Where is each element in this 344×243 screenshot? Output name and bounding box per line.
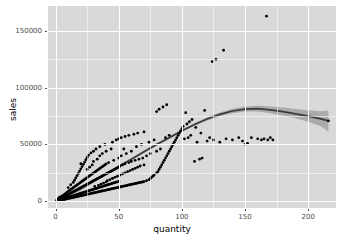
data-point xyxy=(124,135,127,138)
data-point xyxy=(162,106,165,109)
gridline-minor-vertical xyxy=(213,6,214,208)
data-point xyxy=(96,158,99,161)
data-point xyxy=(188,120,191,123)
x-axis-title: quantity xyxy=(0,224,344,234)
data-point xyxy=(98,154,101,157)
data-point xyxy=(132,133,135,136)
gridline-minor-horizontal xyxy=(48,59,336,60)
y-axis-title: sales xyxy=(8,98,18,121)
data-point xyxy=(186,123,189,126)
data-point xyxy=(67,186,70,189)
data-point xyxy=(263,137,266,140)
data-point xyxy=(256,137,259,140)
data-point xyxy=(164,136,167,139)
data-point xyxy=(271,139,274,142)
scatter-plot-figure: quantity sales 0500001000001500000501001… xyxy=(0,0,344,243)
x-tick-mark xyxy=(56,209,57,211)
gridline-major-vertical xyxy=(245,6,246,208)
gridline-major-horizontal xyxy=(48,144,336,145)
data-point xyxy=(222,49,225,52)
data-point xyxy=(105,150,108,153)
gridline-major-vertical xyxy=(308,6,309,208)
data-point xyxy=(127,161,130,164)
data-point xyxy=(135,145,138,148)
data-point xyxy=(231,139,234,142)
x-tick-mark xyxy=(119,209,120,211)
data-point xyxy=(98,145,101,148)
data-point xyxy=(141,157,144,160)
gridline-major-horizontal xyxy=(48,201,336,202)
gridline-major-horizontal xyxy=(48,31,336,32)
data-point xyxy=(191,118,194,121)
x-tick-mark xyxy=(182,209,183,211)
data-point xyxy=(121,163,124,166)
y-tick-mark xyxy=(45,144,47,145)
data-point xyxy=(145,154,148,157)
data-point xyxy=(127,134,130,137)
data-point xyxy=(136,132,139,135)
data-point xyxy=(139,165,142,168)
data-point xyxy=(136,166,139,169)
data-point xyxy=(125,152,128,155)
data-point xyxy=(120,136,123,139)
data-point xyxy=(115,139,118,142)
data-point xyxy=(266,139,269,142)
data-point xyxy=(124,162,127,165)
x-tick-mark xyxy=(245,209,246,211)
data-point xyxy=(327,119,330,122)
data-point xyxy=(155,110,158,113)
data-point xyxy=(183,137,186,140)
data-point xyxy=(165,103,168,106)
data-point xyxy=(168,134,171,137)
data-point xyxy=(153,139,156,142)
data-point xyxy=(122,148,125,151)
gridline-major-vertical xyxy=(56,6,57,208)
data-point xyxy=(120,154,123,157)
data-point xyxy=(145,179,148,182)
data-point xyxy=(134,167,137,170)
data-point xyxy=(110,148,113,151)
data-point xyxy=(269,136,272,139)
data-point xyxy=(225,137,228,140)
data-point xyxy=(187,136,190,139)
scatter-points xyxy=(48,6,336,208)
data-point xyxy=(106,179,109,182)
gridline-major-vertical xyxy=(182,6,183,208)
data-point xyxy=(107,161,110,164)
data-point xyxy=(199,132,202,135)
data-point xyxy=(92,160,95,163)
data-point xyxy=(92,150,95,153)
y-tick-label: 0 xyxy=(2,197,42,205)
data-point xyxy=(79,162,82,165)
y-tick-label: 150000 xyxy=(2,27,42,35)
gridline-minor-vertical xyxy=(87,6,88,208)
data-point xyxy=(101,152,104,155)
data-point xyxy=(108,178,111,181)
data-point xyxy=(208,136,211,139)
data-point xyxy=(158,108,161,111)
data-point xyxy=(90,152,93,155)
data-point xyxy=(130,150,133,153)
data-point xyxy=(193,160,196,163)
data-point xyxy=(198,158,201,161)
data-point xyxy=(102,182,105,185)
plot-panel xyxy=(48,6,336,208)
data-point xyxy=(265,15,268,18)
data-point xyxy=(111,177,114,180)
data-point xyxy=(105,163,108,166)
data-point xyxy=(69,183,72,186)
y-tick-label: 50000 xyxy=(2,140,42,148)
data-point xyxy=(237,136,240,139)
x-tick-label: 100 xyxy=(162,213,202,221)
y-tick-label: 100000 xyxy=(2,84,42,92)
x-tick-mark xyxy=(308,209,309,211)
data-point xyxy=(91,163,94,166)
x-tick-label: 150 xyxy=(225,213,265,221)
data-point xyxy=(250,136,253,139)
gridline-minor-horizontal xyxy=(48,173,336,174)
data-point xyxy=(159,148,162,151)
data-point xyxy=(143,180,146,183)
data-point xyxy=(155,150,158,153)
data-point xyxy=(184,111,187,114)
gridline-minor-horizontal xyxy=(48,116,336,117)
